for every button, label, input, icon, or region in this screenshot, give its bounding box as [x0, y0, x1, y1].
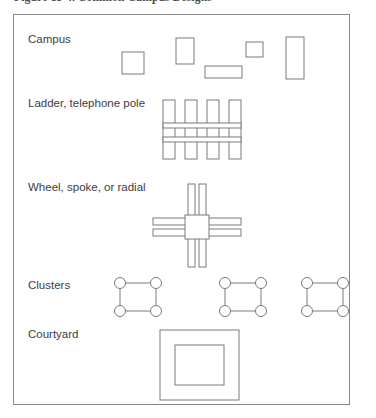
figure-border-frame [13, 14, 350, 405]
figure-caption: Figure 11-4. Common Campus Designs [14, 0, 364, 4]
figure-root: Figure 11-4. Common Campus Designs Campu… [0, 0, 376, 418]
